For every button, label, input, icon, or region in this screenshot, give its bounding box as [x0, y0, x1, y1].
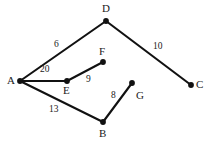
- graph-vertex-a: [17, 78, 23, 84]
- graph-edge-a-b: [20, 81, 103, 122]
- edge-weight-label-a-e: 20: [40, 65, 50, 75]
- graph-edge-b-g: [103, 83, 132, 122]
- vertex-label-f: F: [99, 46, 105, 57]
- graph-vertex-d: [103, 18, 109, 24]
- vertex-label-d: D: [102, 3, 110, 14]
- graph-vertex-c: [188, 82, 194, 88]
- edge-weight-label-a-b: 13: [49, 105, 59, 115]
- vertex-label-b: B: [99, 128, 106, 139]
- graph-diagram: ABCDEFG 610209138: [0, 0, 211, 146]
- graph-vertex-b: [100, 119, 106, 125]
- graph-edge-d-c: [106, 21, 191, 85]
- graph-edge-a-d: [20, 21, 106, 81]
- vertex-label-e: E: [63, 85, 70, 96]
- vertex-label-g: G: [136, 90, 144, 101]
- graph-vertex-g: [129, 80, 135, 86]
- edge-weight-label-a-d: 6: [54, 40, 59, 50]
- edge-weight-label-e-f: 9: [86, 75, 91, 85]
- graph-canvas: [0, 0, 211, 146]
- vertex-label-a: A: [7, 75, 15, 86]
- edge-weight-label-b-g: 8: [111, 91, 116, 101]
- graph-edge-e-f: [67, 62, 103, 81]
- graph-vertex-f: [100, 59, 106, 65]
- edge-weight-label-d-c: 10: [153, 42, 163, 52]
- vertex-label-c: C: [196, 79, 203, 90]
